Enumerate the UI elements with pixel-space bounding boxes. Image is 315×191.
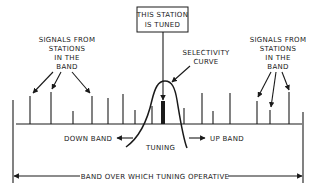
right-arrow-2 (271, 72, 276, 107)
box-line-2: IS TUNED (145, 21, 181, 29)
band-label: BAND OVER WHICH TUNING OPERATIVE (81, 173, 229, 181)
box-line-1: THIS STATION (136, 11, 188, 19)
left-arrow-1 (33, 72, 53, 93)
left-signals-label: SIGNALS FROM STATIONS IN THE BAND (39, 36, 96, 71)
right-arrow-3 (282, 72, 289, 90)
left-arrow-3 (72, 72, 90, 93)
right-arrow-1 (258, 72, 271, 97)
svg-text:CURVE: CURVE (193, 58, 218, 66)
selectivity-curve-label: SELECTIVITY CURVE (182, 49, 230, 66)
svg-text:STATIONS: STATIONS (260, 45, 297, 53)
svg-text:STATIONS: STATIONS (49, 45, 86, 53)
tuning-label: TUNING (145, 144, 175, 152)
svg-text:SELECTIVITY: SELECTIVITY (182, 49, 230, 57)
svg-text:SIGNALS FROM: SIGNALS FROM (39, 36, 96, 44)
tuning-diagram: THIS STATION IS TUNED SIGNALS FROM STATI… (0, 0, 315, 191)
svg-text:IN THE: IN THE (265, 54, 290, 62)
down-band-label: DOWN BAND (64, 135, 112, 143)
station-tuned-box: THIS STATION IS TUNED (136, 7, 188, 32)
up-band-label: UP BAND (210, 135, 244, 143)
left-arrow-2 (52, 72, 61, 89)
svg-text:BAND: BAND (267, 63, 288, 71)
selectivity-arrow (172, 66, 190, 82)
svg-text:SIGNALS FROM: SIGNALS FROM (250, 36, 307, 44)
svg-text:IN THE: IN THE (54, 54, 79, 62)
tuned-station-signal (161, 101, 165, 124)
svg-text:BAND: BAND (56, 63, 77, 71)
right-signals-label: SIGNALS FROM STATIONS IN THE BAND (250, 36, 307, 71)
right-station-signals (184, 92, 289, 124)
left-station-signals (30, 92, 152, 124)
